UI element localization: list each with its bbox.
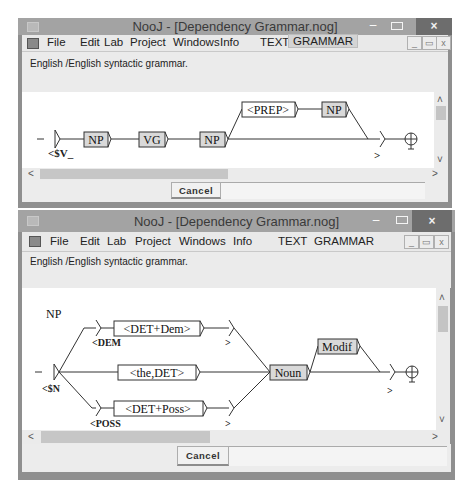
mdi-close-button[interactable]: x — [436, 36, 451, 50]
menu-windows[interactable]: Windows — [173, 36, 220, 48]
menu-windows[interactable]: Windows — [179, 235, 226, 247]
node-noun: Noun — [270, 365, 310, 380]
title-bar[interactable]: NooJ - [Dependency Grammar.nog] – × — [18, 210, 455, 232]
mdi-minimize-button[interactable]: _ — [404, 235, 419, 249]
window-title: NooJ - [Dependency Grammar.nog] — [18, 214, 455, 229]
svg-text:<PREP>: <PREP> — [247, 103, 289, 117]
scroll-down-icon[interactable]: ˅ — [439, 414, 445, 425]
menu-grammar[interactable]: GRAMMAR — [288, 34, 358, 48]
minimize-button[interactable]: – — [366, 213, 386, 227]
document-icon[interactable] — [29, 236, 41, 247]
svg-text:NP: NP — [88, 133, 104, 147]
horizontal-scrollbar[interactable]: < > — [22, 168, 448, 180]
svg-text:>: > — [374, 149, 380, 161]
cancel-button[interactable]: Cancel — [177, 446, 229, 466]
menu-bar: File Edit Lab Project Windows Info TEXT … — [22, 232, 451, 252]
grammar-graph: NP — [22, 288, 436, 430]
close-button[interactable]: × — [416, 18, 452, 35]
grammar-description: English /English syntactic grammar. — [30, 58, 188, 69]
mdi-close-button[interactable]: x — [434, 235, 449, 249]
horizontal-scroll-thumb[interactable] — [41, 431, 210, 443]
nooj-window-2: NooJ - [Dependency Grammar.nog] – × File… — [18, 210, 455, 480]
maximize-button[interactable] — [396, 216, 408, 224]
svg-text:<DEM: <DEM — [92, 337, 122, 348]
scroll-up-icon[interactable]: ˄ — [437, 94, 443, 105]
vertical-scroll-thumb[interactable] — [436, 106, 446, 120]
menu-info[interactable]: Info — [233, 235, 252, 247]
mdi-minimize-button[interactable]: _ — [407, 36, 422, 50]
scroll-down-icon[interactable]: ˅ — [437, 154, 443, 165]
vertical-scroll-thumb[interactable] — [438, 306, 448, 332]
svg-text:>: > — [225, 337, 231, 348]
menu-project[interactable]: Project — [130, 36, 166, 48]
horizontal-scroll-thumb[interactable] — [40, 169, 228, 179]
maximize-button[interactable] — [391, 22, 403, 30]
svg-text:<$N: <$N — [42, 383, 61, 394]
close-button[interactable]: × — [412, 210, 452, 232]
minimize-button[interactable]: – — [363, 18, 383, 32]
graph-name: NP — [46, 307, 62, 321]
node-np-1: NP — [84, 132, 111, 147]
menu-bar: File Edit Lab Project Windows Info TEXT … — [22, 35, 448, 52]
cancel-button[interactable]: Cancel — [171, 182, 221, 199]
scroll-left-icon[interactable]: < — [28, 431, 34, 442]
node-det-poss: <DET+Poss> — [114, 401, 207, 416]
svg-text:<DET+Poss>: <DET+Poss> — [125, 402, 191, 416]
svg-text:NP: NP — [204, 133, 220, 147]
menu-lab[interactable]: Lab — [107, 235, 126, 247]
node-prep: <PREP> — [242, 102, 298, 117]
node-np-2: NP — [200, 132, 228, 147]
graph-canvas[interactable]: NP — [22, 288, 436, 430]
horizontal-scrollbar[interactable]: < > — [22, 430, 450, 444]
cancel-bar: Cancel — [22, 444, 451, 472]
node-vg: VG — [139, 132, 168, 147]
window-title: NooJ - [Dependency Grammar.nog] — [18, 19, 452, 34]
svg-text:NP: NP — [326, 103, 342, 117]
menu-project[interactable]: Project — [135, 235, 171, 247]
menu-edit[interactable]: Edit — [80, 36, 100, 48]
svg-text:>: > — [387, 385, 393, 396]
document-icon[interactable] — [27, 38, 39, 49]
svg-text:VG: VG — [143, 133, 161, 147]
svg-text:Modif: Modif — [322, 340, 352, 354]
vertical-scrollbar[interactable]: ˄ ˅ — [436, 288, 450, 430]
vertical-scrollbar[interactable]: ˄ ˅ — [434, 92, 448, 168]
status-field — [229, 446, 447, 466]
node-det-dem: <DET+Dem> — [114, 321, 204, 336]
menu-text[interactable]: TEXT — [260, 36, 289, 48]
grammar-description: English /English syntactic grammar. — [30, 256, 188, 267]
svg-text:<the,DET>: <the,DET> — [130, 366, 185, 380]
node-modif: Modif — [318, 339, 360, 354]
svg-text:<$V_: <$V_ — [48, 147, 74, 159]
status-field — [221, 182, 425, 199]
node-the-det: <the,DET> — [118, 365, 200, 380]
grammar-graph: NP VG NP <PREP> — [22, 92, 434, 168]
menu-info[interactable]: Info — [220, 36, 239, 48]
cancel-bar: Cancel — [22, 180, 448, 202]
nooj-window-1: NooJ - [Dependency Grammar.nog] – × File… — [18, 18, 452, 208]
menu-lab[interactable]: Lab — [104, 36, 123, 48]
svg-text:<POSS: <POSS — [90, 418, 121, 429]
scroll-left-icon[interactable]: < — [28, 168, 34, 179]
description-area: English /English syntactic grammar. — [22, 252, 451, 288]
scroll-right-icon[interactable]: > — [432, 431, 438, 442]
svg-text:<DET+Dem>: <DET+Dem> — [124, 322, 191, 336]
svg-text:>: > — [225, 418, 231, 429]
mdi-restore-button[interactable]: ▭ — [422, 36, 437, 50]
svg-text:Noun: Noun — [275, 366, 302, 380]
node-np-3: NP — [322, 102, 349, 117]
menu-edit[interactable]: Edit — [80, 235, 100, 247]
title-bar[interactable]: NooJ - [Dependency Grammar.nog] – × — [18, 18, 452, 35]
mdi-restore-button[interactable]: ▭ — [419, 235, 434, 249]
menu-file[interactable]: File — [47, 36, 66, 48]
description-area: English /English syntactic grammar. — [22, 52, 448, 92]
menu-grammar[interactable]: GRAMMAR — [314, 235, 374, 247]
menu-file[interactable]: File — [50, 235, 69, 247]
menu-text[interactable]: TEXT — [278, 235, 307, 247]
scroll-right-icon[interactable]: > — [432, 168, 438, 179]
graph-canvas[interactable]: NP VG NP <PREP> — [22, 92, 434, 168]
scroll-up-icon[interactable]: ˄ — [439, 292, 445, 303]
